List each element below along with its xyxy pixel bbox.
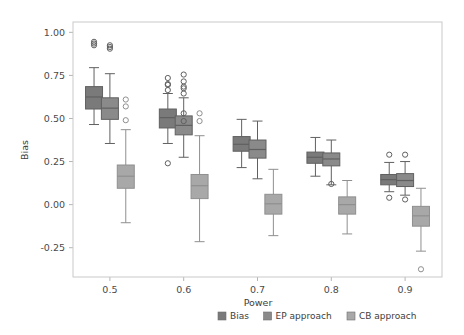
legend-item-bias[interactable]: Bias	[218, 311, 249, 321]
boxplot-cb-approach-0.5	[117, 97, 134, 223]
x-axis-tick-label: 0.8	[324, 284, 339, 295]
chart-canvas: 1.000.750.500.250.00-0.25 0.50.60.70.80.…	[0, 0, 464, 335]
outlier-point	[387, 152, 392, 157]
boxplot-bias-0.7	[233, 119, 250, 167]
y-axis-tick-label: -0.25	[40, 242, 65, 253]
outlier-point	[181, 72, 186, 77]
legend-label: Bias	[230, 311, 249, 321]
legend-swatch	[264, 312, 272, 320]
boxplot-bias-0.6	[159, 75, 176, 165]
legend-item-ep-approach[interactable]: EP approach	[264, 311, 332, 321]
legend-item-cb-approach[interactable]: CB approach	[347, 311, 416, 321]
boxplot-cb-approach-0.7	[265, 169, 282, 235]
x-axis-tick-label: 0.5	[102, 284, 117, 295]
legend: BiasEP approachCB approach	[218, 311, 416, 321]
boxplot-ep-approach-0.9	[397, 152, 414, 202]
y-axis-tick-label: 0.25	[44, 156, 65, 167]
legend-swatch	[218, 312, 226, 320]
boxplot-ep-approach-0.7	[249, 121, 266, 179]
outlier-point	[403, 197, 408, 202]
boxplot-figure: 1.000.750.500.250.00-0.25 0.50.60.70.80.…	[0, 0, 464, 335]
y-axis-tick-label: 0.00	[44, 199, 65, 210]
outlier-point	[403, 152, 408, 157]
y-axis-title: Bias	[19, 140, 30, 160]
legend-label: EP approach	[276, 311, 332, 321]
outlier-point	[165, 75, 170, 80]
boxplot-cb-approach-0.8	[339, 181, 356, 234]
x-axis-title: Power	[244, 297, 273, 308]
box-rect	[159, 109, 176, 128]
y-axis-tick-label: 1.00	[44, 27, 65, 38]
outlier-point	[197, 111, 202, 116]
x-axis-tick-label: 0.6	[176, 284, 191, 295]
boxplot-cb-approach-0.6	[191, 111, 208, 242]
box-rect	[86, 87, 103, 109]
y-axis-tick-label: 0.75	[44, 70, 65, 81]
boxplot-ep-approach-0.6	[175, 72, 192, 157]
outlier-point	[123, 104, 128, 109]
box-rect	[339, 197, 356, 214]
outlier-point	[123, 118, 128, 123]
boxplot-cb-approach-0.9	[412, 188, 429, 272]
legend-label: CB approach	[359, 311, 416, 321]
outlier-point	[181, 91, 186, 96]
outlier-point	[181, 79, 186, 84]
legend-swatch	[347, 312, 355, 320]
y-axis-tick-label: 0.50	[44, 113, 65, 124]
boxplot-bias-0.8	[307, 137, 324, 176]
x-axis-group: 0.50.60.70.80.9	[102, 277, 412, 295]
outlier-point	[387, 195, 392, 200]
boxplot-ep-approach-0.8	[323, 140, 340, 187]
outlier-point	[165, 161, 170, 166]
outlier-point	[197, 118, 202, 123]
outlier-point	[165, 87, 170, 92]
outlier-point	[123, 97, 128, 102]
outlier-point	[418, 267, 423, 272]
box-rect	[191, 174, 208, 198]
boxplot-bias-0.9	[381, 152, 398, 200]
x-axis-tick-label: 0.7	[250, 284, 265, 295]
boxplot-bias-0.5	[86, 39, 103, 124]
boxes-group	[86, 39, 430, 272]
y-axis-group: 1.000.750.500.250.00-0.25	[40, 27, 73, 253]
boxplot-ep-approach-0.5	[101, 43, 118, 144]
x-axis-tick-label: 0.9	[398, 284, 413, 295]
